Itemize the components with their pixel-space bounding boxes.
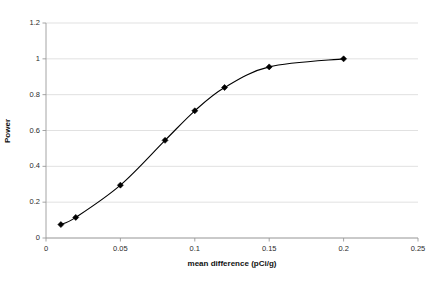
y-tick-label: 1 — [8, 55, 40, 63]
gridlines-group — [46, 23, 418, 238]
x-tick-label: 0.15 — [262, 245, 277, 253]
y-tick-marks-group — [43, 23, 47, 238]
x-tick-label: 0 — [44, 245, 48, 253]
x-tick-label: 0.05 — [113, 245, 128, 253]
y-tick-label: 0.4 — [8, 163, 40, 171]
y-tick-label: 0.2 — [8, 198, 40, 206]
plot-canvas — [0, 0, 442, 281]
data-point-marker — [341, 56, 347, 62]
y-axis-title: Power — [4, 119, 12, 143]
x-tick-marks-group — [46, 238, 418, 242]
y-tick-label: 0.6 — [8, 127, 40, 135]
y-tick-label: 0.8 — [8, 91, 40, 99]
data-point-marker — [73, 214, 79, 220]
power-curve-chart: 00.20.40.60.811.2 00.050.10.150.20.25 me… — [0, 0, 442, 281]
data-series-line — [61, 59, 344, 225]
data-point-marker — [266, 64, 272, 70]
y-tick-label: 1.2 — [8, 19, 40, 27]
x-tick-label: 0.2 — [338, 245, 348, 253]
x-tick-label: 0.1 — [190, 245, 200, 253]
data-point-marker — [58, 222, 64, 228]
x-axis-title: mean difference (pCi/g) — [46, 260, 418, 268]
y-tick-label: 0 — [8, 234, 40, 242]
x-tick-label: 0.25 — [411, 245, 426, 253]
data-point-marker — [222, 85, 228, 91]
